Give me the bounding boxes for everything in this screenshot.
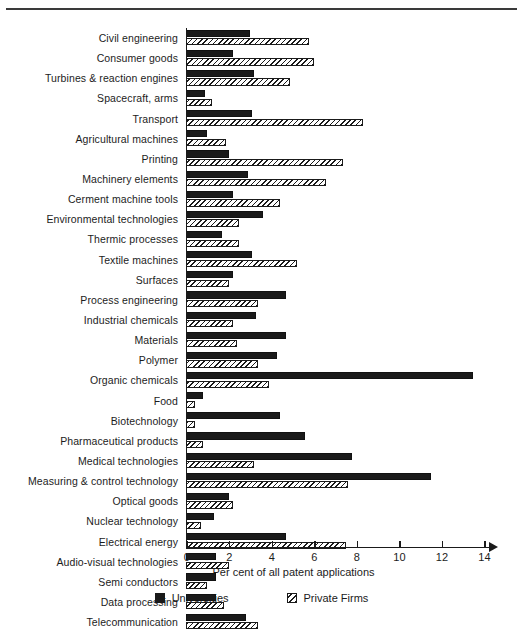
category-label-row: Process engineering xyxy=(0,290,182,310)
bar-private-firms xyxy=(186,219,239,226)
category-label-row: Thermic processes xyxy=(0,229,182,249)
category-label: Food xyxy=(154,395,178,407)
bar-private-firms xyxy=(186,99,212,106)
bar-universities xyxy=(186,614,246,621)
legend-item-private-firms: Private Firms xyxy=(287,592,369,604)
bar-private-firms xyxy=(186,320,233,327)
category-label: Materials xyxy=(135,334,179,346)
bar-private-firms xyxy=(186,501,233,508)
category-label: Consumer goods xyxy=(97,52,178,64)
bar-universities xyxy=(186,493,229,500)
bar-group xyxy=(186,431,486,451)
category-label: Cerment machine tools xyxy=(68,193,178,205)
bar-universities xyxy=(186,50,233,57)
category-label: Spacecraft, arms xyxy=(97,92,178,104)
x-tick xyxy=(314,541,315,548)
bar-private-firms xyxy=(186,179,326,186)
bar-private-firms xyxy=(186,139,226,146)
bar-universities xyxy=(186,432,305,439)
bar-group xyxy=(186,129,486,149)
category-label: Surfaces xyxy=(136,274,178,286)
category-label-row: Consumer goods xyxy=(0,48,182,68)
category-label-row: Machinery elements xyxy=(0,169,182,189)
bar-universities xyxy=(186,150,229,157)
x-tick xyxy=(229,541,230,548)
category-label-row: Textile machines xyxy=(0,250,182,270)
x-axis-line xyxy=(187,547,490,548)
category-label-row: Industrial chemicals xyxy=(0,310,182,330)
category-label-row: Surfaces xyxy=(0,270,182,290)
bar-universities xyxy=(186,110,252,117)
category-label: Electrical energy xyxy=(99,536,178,548)
bar-group xyxy=(186,270,486,290)
category-label-row: Agricultural machines xyxy=(0,129,182,149)
category-label-row: Measuring & control technology xyxy=(0,471,182,491)
bar-private-firms xyxy=(186,481,348,488)
bar-group xyxy=(186,370,486,390)
bar-private-firms xyxy=(186,260,297,267)
bar-universities xyxy=(186,231,222,238)
category-label-row: Biotechnology xyxy=(0,411,182,431)
x-tick xyxy=(357,541,358,548)
bar-universities xyxy=(186,352,277,359)
chart-legend: Universities Private Firms xyxy=(0,592,523,604)
category-label-row: Pharmaceutical products xyxy=(0,431,182,451)
bar-group xyxy=(186,48,486,68)
category-label-row: Food xyxy=(0,391,182,411)
category-label-row: Turbines & reaction engines xyxy=(0,68,182,88)
category-label-row: Optical goods xyxy=(0,491,182,511)
bar-private-firms xyxy=(186,159,343,166)
bar-group xyxy=(186,290,486,310)
bar-group xyxy=(186,209,486,229)
bar-group xyxy=(186,169,486,189)
category-label-row: Transport xyxy=(0,109,182,129)
category-label: Polymer xyxy=(139,354,178,366)
bar-private-firms xyxy=(186,441,203,448)
bar-universities xyxy=(186,191,233,198)
category-label-row: Telecommunication xyxy=(0,612,182,630)
bar-private-firms xyxy=(186,280,229,287)
y-axis-line xyxy=(186,28,187,547)
category-label: Machinery elements xyxy=(82,173,178,185)
category-axis-labels: Civil engineeringConsumer goodsTurbines … xyxy=(0,28,182,630)
bar-group xyxy=(186,471,486,491)
category-label: Nuclear technology xyxy=(86,515,178,527)
category-label: Measuring & control technology xyxy=(28,475,178,487)
x-tick-label: 14 xyxy=(478,551,490,563)
bar-private-firms xyxy=(186,38,309,45)
bar-universities xyxy=(186,30,250,37)
bar-group xyxy=(186,511,486,531)
bar-universities xyxy=(186,171,248,178)
category-label: Civil engineering xyxy=(99,32,178,44)
x-tick-label: 12 xyxy=(436,551,448,563)
bar-universities xyxy=(186,553,216,560)
x-axis-title: Per cent of all patent applications xyxy=(0,566,523,578)
category-label: Environmental technologies xyxy=(46,213,178,225)
category-label-row: Civil engineering xyxy=(0,28,182,48)
legend-item-universities: Universities xyxy=(155,592,229,604)
category-label: Optical goods xyxy=(112,495,178,507)
bar-group xyxy=(186,28,486,48)
bar-private-firms xyxy=(186,360,258,367)
bar-group xyxy=(186,350,486,370)
bar-universities xyxy=(186,251,252,258)
bar-universities xyxy=(186,291,286,298)
bar-private-firms xyxy=(186,58,314,65)
x-tick-label: 2 xyxy=(226,551,232,563)
bar-private-firms xyxy=(186,300,258,307)
bar-universities xyxy=(186,412,280,419)
category-label: Printing xyxy=(142,153,178,165)
bar-group xyxy=(186,250,486,270)
category-label-row: Medical technologies xyxy=(0,451,182,471)
legend-swatch-private-firms-icon xyxy=(287,593,297,603)
bar-universities xyxy=(186,533,286,540)
bar-private-firms xyxy=(186,119,363,126)
category-label-row: Nuclear technology xyxy=(0,511,182,531)
category-label: Organic chemicals xyxy=(90,374,178,386)
bar-group xyxy=(186,451,486,471)
category-label: Transport xyxy=(133,113,178,125)
bar-universities xyxy=(186,312,256,319)
bar-group xyxy=(186,330,486,350)
bar-private-firms xyxy=(186,522,201,529)
bar-private-firms xyxy=(186,381,269,388)
